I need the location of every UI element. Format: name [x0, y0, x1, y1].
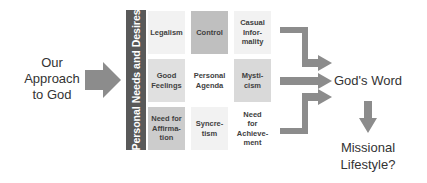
down-arrow: [359, 101, 377, 133]
cell-text: Need for: [151, 114, 181, 124]
cell-text: Infor-: [240, 28, 265, 38]
cell-need-for-affirmation: Need for Affirma- tion: [148, 107, 185, 150]
cell-text: cism: [242, 81, 264, 91]
cell-text: for: [237, 119, 268, 129]
cell-text: Casual: [240, 18, 265, 28]
missional-line: Missional: [330, 139, 406, 156]
middle-arrow: [280, 73, 332, 89]
cell-text: Control: [196, 28, 223, 38]
missional-lifestyle-label: Missional Lifestyle?: [330, 139, 406, 173]
cell-need-for-achievement: Need for Achieve- ment: [234, 107, 271, 150]
cell-text: tion: [151, 133, 181, 143]
gods-word-label: God's Word: [334, 73, 402, 88]
missional-line: Lifestyle?: [330, 156, 406, 173]
cell-text: Syncre-: [196, 119, 224, 129]
cell-text: Mysti-: [242, 71, 264, 81]
cell-text: Personal: [194, 71, 226, 81]
cell-casual-informality: Casual Infor- mality: [234, 11, 271, 54]
cell-text: Legalism: [150, 28, 183, 38]
cell-text: Good: [151, 71, 181, 81]
cell-text: tism: [196, 129, 224, 139]
cell-personal-agenda: Personal Agenda: [191, 59, 228, 102]
bottom-bent-arrow: [280, 89, 332, 134]
top-bent-arrow: [280, 27, 332, 71]
cell-text: Agenda: [194, 81, 226, 91]
cell-control: Control: [191, 11, 228, 54]
cell-text: Affirma-: [151, 124, 181, 134]
cell-text: ment: [237, 138, 268, 148]
personal-needs-bar: Personal Needs and Desires: [126, 10, 146, 150]
cell-syncretism: Syncre- tism: [191, 107, 228, 150]
cell-text: Need: [237, 110, 268, 120]
left-block-arrow: [85, 62, 121, 98]
personal-needs-label: Personal Needs and Desires: [130, 9, 142, 150]
cell-good-feelings: Good Feelings: [148, 59, 185, 102]
cell-legalism: Legalism: [148, 11, 185, 54]
cell-text: Achieve-: [237, 129, 268, 139]
cell-mysticism: Mysti- cism: [234, 59, 271, 102]
cell-text: Feelings: [151, 81, 181, 91]
cell-text: mality: [240, 37, 265, 47]
